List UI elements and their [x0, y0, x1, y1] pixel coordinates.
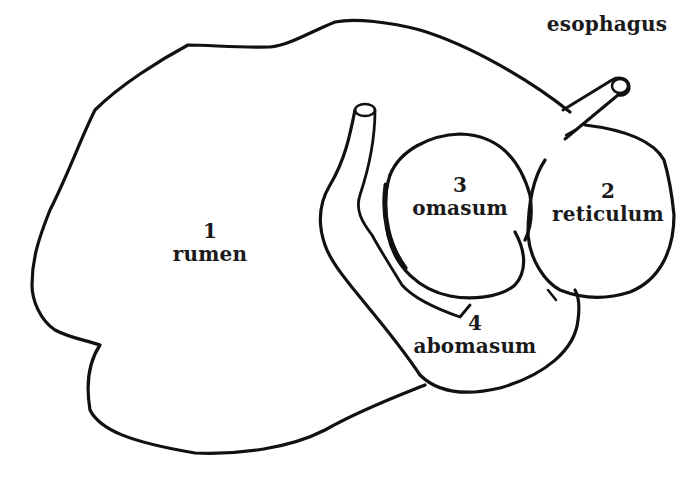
label-reticulum: 2 reticulum [548, 180, 668, 226]
abomasum-junction [548, 290, 556, 300]
label-esophagus: esophagus [542, 13, 672, 36]
label-omasum: 3 omasum [405, 174, 515, 220]
label-abomasum: 4 abomasum [410, 312, 540, 358]
omasum-label: omasum [405, 197, 515, 220]
label-rumen: 1 rumen [160, 220, 260, 266]
reticulum-label: reticulum [548, 203, 668, 226]
omasum-number: 3 [405, 174, 515, 197]
rumen-outline [32, 20, 570, 453]
abomasum-tube-opening [355, 104, 375, 116]
rumen-number: 1 [160, 220, 260, 243]
omasum-thick-edge [385, 185, 405, 268]
esophagus-label: esophagus [542, 13, 672, 36]
abomasum-number: 4 [410, 312, 540, 335]
stomach-diagram [0, 0, 694, 487]
reticulum-number: 2 [548, 180, 668, 203]
esophagus-opening [612, 79, 628, 93]
abomasum-label: abomasum [410, 335, 540, 358]
rumen-label: rumen [160, 243, 260, 266]
